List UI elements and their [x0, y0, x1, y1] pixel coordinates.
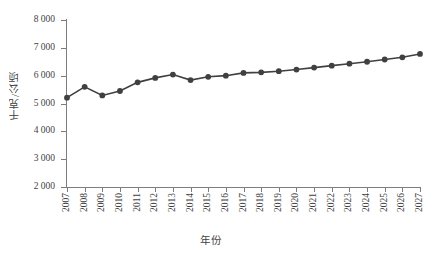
- data-point-marker: [329, 63, 335, 69]
- data-point-marker: [347, 61, 353, 67]
- data-point-marker: [152, 75, 158, 81]
- data-point-marker: [99, 93, 105, 99]
- data-point-marker: [82, 84, 88, 90]
- data-point-marker: [417, 51, 423, 57]
- data-point-marker: [188, 77, 194, 83]
- data-point-marker: [382, 57, 388, 63]
- data-point-marker: [170, 72, 176, 78]
- x-axis-label: 年份: [0, 232, 433, 247]
- data-point-marker: [135, 79, 141, 85]
- data-point-marker: [364, 59, 370, 65]
- data-series: [0, 0, 433, 259]
- data-point-marker: [64, 95, 70, 101]
- data-point-marker: [223, 73, 229, 79]
- data-point-marker: [241, 70, 247, 76]
- data-point-marker: [258, 69, 264, 75]
- data-point-marker: [399, 54, 405, 60]
- data-point-marker: [311, 65, 317, 71]
- data-point-marker: [117, 88, 123, 94]
- x-axis-label-text: 年份: [200, 235, 222, 246]
- data-point-marker: [205, 74, 211, 80]
- data-point-marker: [294, 67, 300, 73]
- data-point-marker: [276, 68, 282, 74]
- line-chart: 千克/公顷 8 0007 0006 0005 0004 0003 0002 00…: [0, 0, 433, 259]
